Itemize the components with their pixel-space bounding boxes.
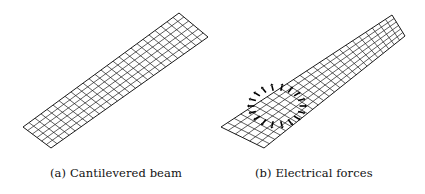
panel-cantilevered-beam: (a) Cantilevered beam [0, 0, 212, 194]
caption-b: (b) Electrical forces [255, 166, 373, 180]
beam-mesh [0, 0, 212, 165]
mesh-grid [221, 15, 405, 148]
caption-a: (a) Cantilevered beam [50, 166, 182, 180]
mesh-grid [23, 13, 208, 148]
panel-electrical-forces: (b) Electrical forces [212, 0, 424, 194]
beam-mesh-with-forces [212, 0, 425, 165]
